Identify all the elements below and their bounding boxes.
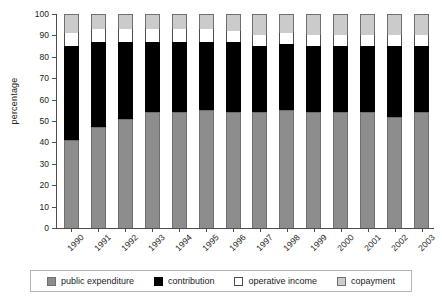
bar-segment-copayment [279,14,294,33]
bar-1991 [91,14,106,228]
bar-1990 [64,14,79,228]
bar-segment-public-expenditure [387,117,402,228]
x-axis-tick [152,228,153,232]
x-axis-tick-label: 2003 [416,232,437,253]
bar-segment-contribution [145,42,160,113]
y-axis-tick-label: 80 [40,53,49,61]
bar-segment-operative-income [252,35,267,46]
x-axis-tick [368,228,369,232]
legend-label-public-expenditure: public expenditure [61,276,134,286]
y-axis-tick-label: 0 [44,224,49,232]
bar-1998 [279,14,294,228]
bar-segment-contribution [172,42,187,113]
x-axis-tick [341,228,342,232]
bar-segment-operative-income [118,29,133,42]
x-axis-tick-label: 1992 [119,232,140,253]
bar-1996 [226,14,241,228]
bar-1999 [306,14,321,228]
y-axis-tick-label: 10 [40,203,49,211]
bar-segment-contribution [91,42,106,128]
bar-1992 [118,14,133,228]
y-axis-tick [52,185,56,186]
y-axis-tick-label: 70 [40,74,49,82]
y-axis-tick-label: 20 [40,181,49,189]
y-axis-tick [52,100,56,101]
bar-1995 [199,14,214,228]
x-axis-tick-label: 1995 [200,232,221,253]
bar-segment-public-expenditure [252,112,267,228]
legend-item: public expenditure [47,276,134,286]
y-axis-tick [52,164,56,165]
bar-segment-operative-income [64,33,79,46]
legend-label-contribution: contribution [168,276,215,286]
x-axis-tick [71,228,72,232]
y-axis-tick [52,207,56,208]
bar-segment-contribution [279,44,294,110]
legend-item: operative income [234,276,317,286]
x-axis-tick [206,228,207,232]
y-axis-tick [52,35,56,36]
y-axis-tick [52,14,56,15]
stacked-bar-chart: percentage 0102030405060708090100 199019… [0,0,442,301]
bar-2002 [387,14,402,228]
y-axis-tick-label: 100 [35,10,49,18]
bar-2003 [414,14,429,228]
y-axis-tick [52,78,56,79]
bar-segment-public-expenditure [414,112,429,228]
bar-segment-public-expenditure [226,112,241,228]
bar-segment-operative-income [360,35,375,46]
x-axis-tick [287,228,288,232]
y-axis-line [56,14,57,229]
y-axis-tick [52,121,56,122]
bar-segment-operative-income [414,35,429,46]
legend-label-copayment: copayment [351,276,395,286]
bar-segment-public-expenditure [360,112,375,228]
y-axis-tick-label: 90 [40,31,49,39]
bar-segment-copayment [64,14,79,33]
bar-segment-contribution [199,42,214,110]
chart-legend: public expenditure contribution operativ… [30,270,412,292]
legend-item: copayment [337,276,395,286]
bar-segment-contribution [360,46,375,112]
legend-swatch-copayment [337,277,346,286]
bar-segment-operative-income [199,29,214,42]
bar-segment-operative-income [387,35,402,46]
x-axis-tick-label: 1994 [173,232,194,253]
y-axis-tick [52,57,56,58]
bar-segment-copayment [252,14,267,35]
bar-segment-copayment [145,14,160,29]
x-axis-tick [98,228,99,232]
bar-segment-operative-income [333,35,348,46]
bar-segment-contribution [252,46,267,112]
bar-segment-copayment [172,14,187,29]
bar-segment-public-expenditure [118,119,133,228]
y-axis-tick-label: 30 [40,160,49,168]
bar-segment-copayment [306,14,321,35]
x-axis-tick-label: 1998 [281,232,302,253]
x-axis-tick [395,228,396,232]
bar-segment-operative-income [226,31,241,42]
plot-area: 0102030405060708090100 19901991199219931… [57,14,434,228]
x-axis-tick [260,228,261,232]
x-axis-tick-label: 1997 [254,232,275,253]
y-axis-tick-label: 50 [40,117,49,125]
legend-item: contribution [154,276,215,286]
legend-label-operative-income: operative income [248,276,317,286]
y-axis-tick-label: 40 [40,138,49,146]
bar-segment-contribution [118,42,133,119]
bar-segment-copayment [387,14,402,35]
bar-1994 [172,14,187,228]
x-axis-tick-label: 2001 [362,232,383,253]
bar-segment-operative-income [306,35,321,46]
bar-segment-copayment [360,14,375,35]
x-axis-tick [233,228,234,232]
x-axis-tick-label: 1990 [65,232,86,253]
bar-segment-contribution [64,46,79,140]
bar-1993 [145,14,160,228]
bar-segment-public-expenditure [199,110,214,228]
y-axis-tick [52,228,56,229]
bar-segment-contribution [226,42,241,113]
x-axis-tick-label: 1991 [92,232,113,253]
x-axis-tick-label: 1993 [146,232,167,253]
legend-swatch-contribution [154,277,163,286]
